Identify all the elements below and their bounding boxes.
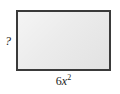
unknown-side-label: ? xyxy=(2,32,14,50)
width-exponent: 2 xyxy=(67,73,71,82)
width-label: 6x2 xyxy=(16,74,111,89)
geometry-figure-canvas: ? 6x2 xyxy=(0,0,120,94)
rectangle-shape xyxy=(16,10,111,71)
